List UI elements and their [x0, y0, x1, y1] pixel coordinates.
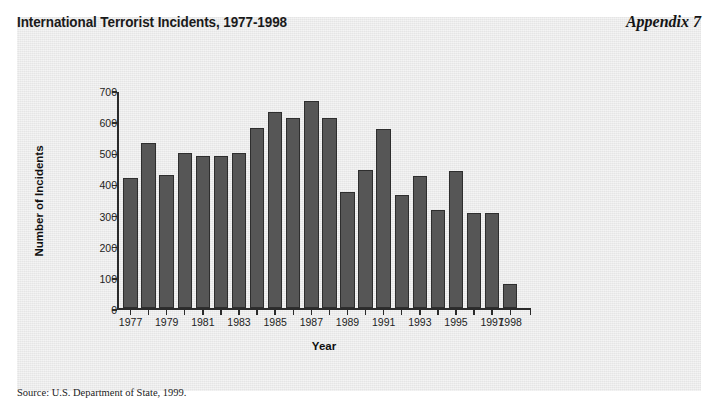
- bar-1983: [232, 153, 246, 309]
- bar-1987: [304, 101, 318, 308]
- y-axis-tick: [112, 309, 117, 310]
- x-axis-tick: [220, 310, 221, 315]
- bar-1986: [286, 118, 300, 308]
- bar-1981: [196, 156, 210, 309]
- x-axis-end-tick: [530, 310, 531, 315]
- y-axis-tick: [112, 154, 117, 155]
- x-axis-tick: [238, 310, 239, 315]
- bar-1982: [214, 156, 228, 309]
- x-axis-tick: [274, 310, 275, 315]
- x-axis-tick-label: 1983: [227, 316, 250, 328]
- bar-1997: [485, 213, 499, 308]
- x-axis-tick: [329, 310, 330, 315]
- y-axis-tick: [112, 91, 117, 92]
- plot-area: [117, 92, 531, 310]
- x-axis-tick: [166, 310, 167, 315]
- bar-1979: [159, 175, 173, 309]
- x-axis-tick: [184, 310, 185, 315]
- x-axis-tick: [455, 310, 456, 315]
- x-axis-tick-label: 1989: [336, 316, 359, 328]
- x-axis-tick-label: 1979: [155, 316, 178, 328]
- y-axis-tick: [112, 122, 117, 123]
- x-axis-tick-label: 1977: [119, 316, 142, 328]
- x-axis-tick-label: 1993: [408, 316, 431, 328]
- bar-1990: [358, 170, 372, 309]
- x-axis-tick: [510, 310, 511, 315]
- x-axis-title: Year: [117, 340, 531, 352]
- x-axis-tick: [491, 310, 492, 315]
- bar-1995: [449, 171, 463, 308]
- bar-1989: [340, 192, 354, 309]
- bar-1980: [178, 153, 192, 309]
- bar-1977: [123, 178, 137, 309]
- x-axis-tick-label: 1998: [499, 316, 522, 328]
- x-axis-tick: [473, 310, 474, 315]
- bar-1984: [250, 128, 264, 309]
- y-axis-title: Number of Incidents: [33, 145, 45, 256]
- x-axis-tick: [311, 310, 312, 315]
- x-axis-tick: [256, 310, 257, 315]
- bar-1985: [268, 112, 282, 308]
- y-axis-line: [117, 92, 119, 310]
- bar-1992: [395, 195, 409, 309]
- bar-1996: [467, 213, 481, 308]
- x-axis-tick-label: 1995: [444, 316, 467, 328]
- source-note: Source: U.S. Department of State, 1999.: [17, 387, 186, 398]
- x-axis-line: [117, 308, 531, 310]
- x-axis-tick-label: 1987: [300, 316, 323, 328]
- chart-container: Number of Incidents Year 010020030040050…: [17, 17, 701, 391]
- x-axis-tick: [419, 310, 420, 315]
- bar-1994: [431, 210, 445, 308]
- bar-1993: [413, 176, 427, 308]
- bar-1988: [322, 118, 336, 308]
- bar-1998: [503, 284, 517, 309]
- y-axis-tick: [112, 216, 117, 217]
- y-axis-tick: [112, 185, 117, 186]
- x-axis-tick-label: 1985: [264, 316, 287, 328]
- bar-1978: [141, 143, 155, 308]
- x-axis-tick: [130, 310, 131, 315]
- y-axis-tick: [112, 278, 117, 279]
- y-axis-tick: [112, 247, 117, 248]
- x-axis-tick-label: 1991: [372, 316, 395, 328]
- x-axis-tick: [293, 310, 294, 315]
- x-axis-tick: [437, 310, 438, 315]
- y-axis-labels: 0100200300400500600700: [77, 92, 117, 310]
- bar-1991: [376, 129, 390, 308]
- x-axis-tick: [148, 310, 149, 315]
- page-canvas: International Terrorist Incidents, 1977-…: [0, 0, 723, 416]
- x-axis-tick: [365, 310, 366, 315]
- x-axis-tick: [202, 310, 203, 315]
- x-axis-tick: [347, 310, 348, 315]
- bar-chart: Number of Incidents Year 010020030040050…: [101, 92, 531, 332]
- x-axis-tick-label: 1981: [191, 316, 214, 328]
- x-axis-tick: [383, 310, 384, 315]
- x-axis-tick: [401, 310, 402, 315]
